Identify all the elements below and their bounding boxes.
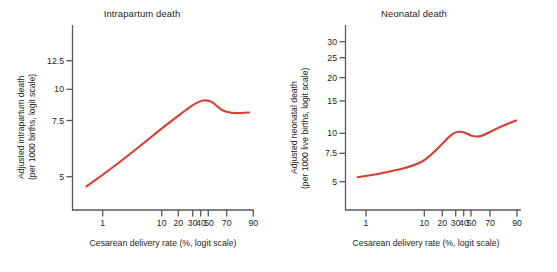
x-tick-label-10: 10 [157,218,167,228]
x-axis-ticks [103,210,254,217]
x-axis-ticks [366,210,517,217]
x-tick-label-70: 70 [485,218,495,228]
y-tick-label-5: 5 [309,177,337,187]
y-tick-label-25: 25 [309,53,337,63]
y-axis-ticks [340,42,346,182]
y-tick-label-7-5: 7.5 [36,116,64,126]
y-axis-ticks [67,61,73,177]
x-tick-label-90: 90 [248,218,258,228]
x-axis-label-intrapartum: Cesarean delivery rate (%, logit scale) [63,238,263,248]
y-tick-label-5: 5 [36,172,64,182]
y-tick-label-10: 10 [36,84,64,94]
x-tick-label-1: 1 [364,218,369,228]
x-tick-label-1: 1 [100,218,105,228]
x-tick-label-50: 50 [204,218,214,228]
panel-neonatal-death: Neonatal death Adjusted neonatal death (… [279,0,557,272]
x-tick-label-90: 90 [512,218,522,228]
line-series-neonatal-death [358,121,517,178]
x-tick-label-20: 20 [173,218,183,228]
panel-intrapartum-death: Intrapartum death Adjusted intrapartum d… [0,0,278,272]
y-tick-label-7-5: 7.5 [309,148,337,158]
plot-area-intrapartum [0,0,278,272]
y-tick-label-30: 30 [309,37,337,47]
figure-two-panel-line-charts: Intrapartum death Adjusted intrapartum d… [0,0,557,272]
x-tick-label-20: 20 [437,218,447,228]
y-tick-label-10: 10 [309,128,337,138]
x-tick-label-50: 50 [467,218,477,228]
y-tick-label-15: 15 [309,96,337,106]
x-tick-label-70: 70 [222,218,232,228]
y-tick-label-12-5: 12.5 [36,56,64,66]
x-axis-label-neonatal: Cesarean delivery rate (%, logit scale) [326,238,526,248]
line-series-intrapartum-death [87,100,250,186]
y-tick-label-20: 20 [309,73,337,83]
x-tick-label-10: 10 [419,218,429,228]
